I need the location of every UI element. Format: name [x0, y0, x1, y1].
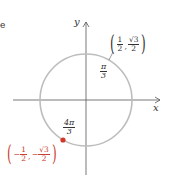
point-4pi-over-3: [60, 137, 65, 142]
coord-label-pi-over-3: ( 1 2 , √3 2 ): [108, 33, 148, 55]
stray-mark: e: [0, 20, 5, 30]
angle-label-pi-over-3: π 3: [100, 63, 107, 80]
angle-label-4pi-over-3: 4π 3: [63, 119, 75, 136]
y-axis-label: y: [74, 16, 80, 27]
x-axis-label: x: [153, 102, 159, 113]
coord-label-4pi-over-3: ( − 1 2 , − √3 2 ): [5, 143, 58, 165]
